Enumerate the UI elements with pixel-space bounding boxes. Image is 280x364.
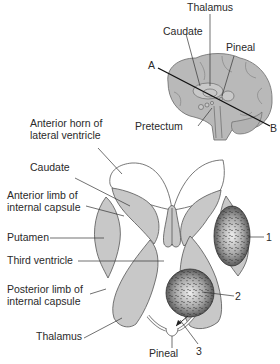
diagram-canvas: Thalamus Caudate Pineal A B Pretectum An…: [0, 0, 280, 364]
inset-label-caudate: Caudate: [163, 25, 203, 37]
label-posterior-limb-line2: internal capsule: [7, 295, 81, 307]
cerebrum-shape: [168, 54, 272, 141]
label-thalamus: Thalamus: [36, 330, 82, 342]
label-third-ventricle: Third ventricle: [7, 254, 73, 266]
left-thalamus: [113, 240, 158, 327]
inset-label-plane-a: A: [148, 59, 155, 71]
label-anterior-horn-line1: Anterior horn of: [30, 117, 102, 129]
pineal-body: [166, 328, 178, 336]
label-anterior-limb-line1: Anterior limb of: [7, 189, 78, 201]
label-caudate: Caudate: [30, 161, 70, 173]
label-posterior-limb-line1: Posterior limb of: [7, 283, 83, 295]
inset-label-pineal: Pineal: [226, 41, 255, 53]
label-putamen: Putamen: [7, 231, 49, 243]
inset-label-plane-b: B: [270, 122, 277, 134]
lesion-label-1: 1: [266, 231, 272, 243]
lesion-2: [166, 269, 214, 317]
lesion-label-3: 3: [196, 345, 202, 357]
inset-label-thalamus: Thalamus: [187, 1, 233, 13]
label-pineal: Pineal: [149, 347, 178, 359]
inset-label-pretectum: Pretectum: [135, 120, 183, 132]
lesion-1: [214, 206, 250, 266]
label-anterior-limb-line2: internal capsule: [7, 201, 81, 213]
lesion-label-2: 2: [235, 290, 241, 302]
label-anterior-horn-line2: lateral ventricle: [30, 129, 101, 141]
